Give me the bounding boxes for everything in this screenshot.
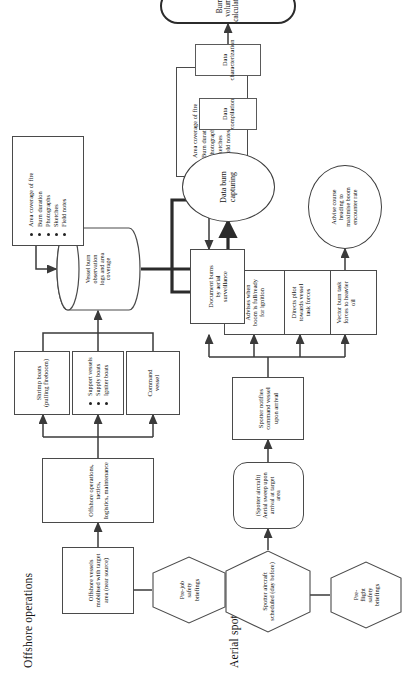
node-observation-data-items[interactable]: Area coverage of fire Burn duration Phot…: [12, 136, 84, 246]
node-label: Pre- flight safety briefings: [330, 561, 402, 629]
node-offshore-operations-tactics[interactable]: Offshore operations, tactics, logistics,…: [42, 458, 154, 523]
observation-items-list: Area coverage of fire Burn duration Phot…: [27, 137, 69, 236]
list-item: Supply boats: [94, 352, 102, 405]
node-offshore-vessels-mobilised[interactable]: Offshore vessels mobilised with target a…: [62, 547, 134, 614]
list-item: Igniter boats: [102, 352, 110, 405]
node-label: Spotter aircraft scheduled (day before): [225, 550, 311, 633]
list-item: Photographs: [44, 137, 52, 236]
node-burn-volume-calculation[interactable]: Burn volume calculation: [160, 0, 296, 24]
section-title-offshore: Offshore operations: [22, 573, 34, 668]
node-advise-course-heading[interactable]: Advise course heading to maximise boom e…: [308, 165, 382, 249]
figure-page: Offshore operations Aerial spotting Pre-…: [0, 0, 408, 690]
node-label: Pre-job safety briefings: [152, 556, 226, 624]
node-preflight-safety-briefings[interactable]: Pre- flight safety briefings: [330, 561, 402, 629]
list-item: Support vessels: [86, 352, 94, 405]
node-shrimp-boats[interactable]: Shrimp boats (pulling fireboom): [14, 351, 70, 415]
list-item: Field notes: [60, 137, 68, 236]
flowchart-canvas: Offshore operations Aerial spotting Pre-…: [0, 0, 408, 690]
node-prejob-safety-briefings[interactable]: Pre-job safety briefings: [152, 556, 226, 624]
node-data-compilation[interactable]: Data compilation: [199, 98, 257, 130]
node-document-burns-aerial-surveillance[interactable]: Document burns by aerial surveillance: [190, 249, 245, 324]
node-spotter-aircraft-scheduled[interactable]: Spotter aircraft scheduled (day before): [225, 550, 311, 633]
list-item: Area coverage of fire: [27, 137, 35, 236]
node-aerial-sweep[interactable]: (Spotter aircraft) Aerial sweep upon arr…: [233, 462, 304, 529]
node-command-vessel[interactable]: Command vessel: [126, 351, 180, 415]
node-data-burn-capturing[interactable]: Data burn capturing: [182, 152, 275, 222]
list-item: Sketches: [52, 137, 60, 236]
support-vessels-list: Support vessels Supply boats Igniter boa…: [86, 352, 110, 405]
node-spotter-notifies-command-vessel[interactable]: Spotter notifies command vessel upon arr…: [232, 377, 304, 440]
list-item: Burn duration: [36, 137, 44, 236]
node-data-characterization[interactable]: Data characterization: [195, 44, 261, 76]
node-support-vessels[interactable]: Support vessels Supply boats Igniter boa…: [72, 351, 124, 415]
